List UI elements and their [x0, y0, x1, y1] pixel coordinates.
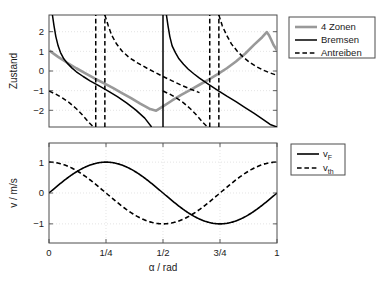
bottom-x-tick-label: 0 — [46, 247, 51, 258]
bottom-x-tick-label: 1 — [274, 247, 279, 258]
figure-root: −2−1012 Zustand 4 ZonenBremsenAntreiben … — [0, 0, 384, 288]
top-chart: −2−1012 Zustand — [8, 15, 277, 127]
bottom-y-axis-label: v / m/s — [8, 178, 19, 207]
bottom-y-tick-label: 0 — [39, 187, 44, 198]
top-y-tick-label: −1 — [33, 85, 44, 96]
bottom-y-tick-label: −1 — [33, 218, 44, 229]
legend-label-4-zonen[interactable]: 4 Zonen — [321, 21, 356, 32]
top-y-tick-label: 0 — [39, 65, 44, 76]
top-y-tick-label: 2 — [39, 26, 44, 37]
bottom-chart: −10101/41/23/41 v / m/s α / rad — [8, 143, 280, 273]
bottom-x-tick-label: 3/4 — [213, 247, 226, 258]
top-legend[interactable]: 4 ZonenBremsenAntreiben — [289, 17, 375, 58]
top-y-tick-label: 1 — [39, 46, 44, 57]
bottom-x-tick-label: 1/4 — [99, 247, 112, 258]
legend-label-antreiben[interactable]: Antreiben — [321, 47, 362, 58]
bottom-legend[interactable]: vFvth — [291, 144, 345, 175]
top-y-tick-label: −2 — [33, 105, 44, 116]
top-y-axis-label: Zustand — [8, 53, 19, 89]
legend-label-bremsen[interactable]: Bremsen — [321, 34, 359, 45]
top-legend-items[interactable]: 4 ZonenBremsenAntreiben — [295, 21, 362, 58]
top-tick-labels: −2−1012 — [33, 26, 44, 116]
bottom-legend-box — [291, 144, 345, 175]
bottom-y-tick-label: 1 — [39, 157, 44, 168]
bottom-x-tick-label: 1/2 — [156, 247, 169, 258]
bottom-x-axis-label: α / rad — [149, 262, 178, 273]
